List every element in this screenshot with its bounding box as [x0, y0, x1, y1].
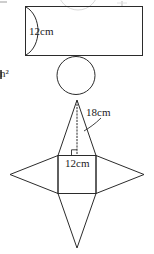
- pyramid-base-edge-label: 12cm: [65, 158, 89, 169]
- units-fragment-label: n²: [0, 68, 9, 79]
- circle-base: [57, 57, 95, 95]
- slant-height-leader-line: [84, 118, 101, 131]
- geometry-figure: [0, 0, 154, 254]
- diagram-canvas: 12cm 18cm 12cm n²: [0, 0, 154, 254]
- pyramid-net-bottom-triangle: [58, 194, 96, 249]
- faint-top-arc: [58, 0, 98, 10]
- right-angle-marker: [72, 150, 78, 155]
- pyramid-net-left-triangle: [10, 156, 58, 194]
- pyramid-net-right-triangle: [96, 156, 144, 194]
- pyramid-slant-height-label: 18cm: [86, 107, 110, 118]
- cylinder-height-label: 12cm: [29, 26, 53, 37]
